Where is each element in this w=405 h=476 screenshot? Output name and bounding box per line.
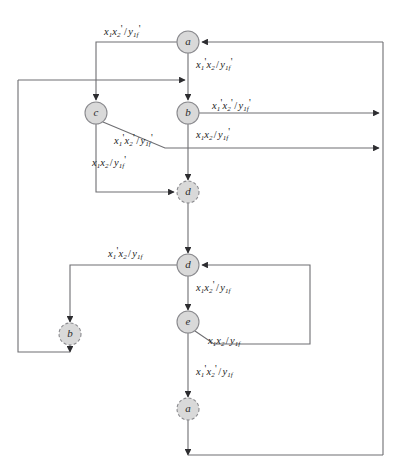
edge-a-dashed-to-right-bus	[188, 420, 383, 455]
node-d-label: d	[185, 258, 191, 270]
edge-a-to-c	[96, 42, 177, 100]
edge-label-c-diagonal: x1'x2'/y1f'	[114, 133, 153, 148]
node-e[interactable]: e	[177, 311, 199, 333]
node-b[interactable]: b	[177, 102, 199, 124]
node-b-dashed-label: b	[67, 327, 73, 339]
edge-label-e-to-d: x1x2/y1f	[208, 336, 240, 348]
node-c-label: c	[94, 106, 99, 118]
node-c[interactable]: c	[85, 102, 107, 124]
edge-d-to-b-dashed	[70, 265, 177, 322]
edge-label-b-right-1: x1'x2'/y1f'	[212, 98, 251, 113]
edge-label-a-to-c: x1x2'/y1f'	[104, 24, 141, 39]
node-b-label: b	[185, 106, 191, 118]
node-e-label: e	[186, 315, 191, 327]
state-diagram: a c b d d b e a x1	[0, 0, 405, 476]
node-a-top-label: a	[185, 35, 191, 47]
edge-label-a-to-b: x1'x2/y1f'	[196, 57, 233, 72]
edge-e-back-to-d	[195, 265, 310, 344]
node-d-dashed-label: d	[185, 185, 191, 197]
node-a-top[interactable]: a	[177, 31, 199, 53]
node-a-dashed[interactable]: a	[177, 398, 199, 420]
node-a-dashed-label: a	[185, 402, 191, 414]
edge-b-dashed-to-left-bus	[18, 80, 70, 352]
edge-label-e-to-a: x1'x2'/y1f	[196, 364, 233, 379]
node-d-dashed[interactable]: d	[177, 181, 199, 203]
node-b-dashed[interactable]: b	[59, 323, 81, 345]
node-d[interactable]: d	[177, 254, 199, 276]
edge-label-b-right-2: x1x2/y1f'	[196, 127, 230, 142]
edge-label-d-to-b: x1'x2/y1f	[108, 246, 142, 261]
edge-label-c-down: x1x2/y1f'	[92, 155, 126, 170]
edge-label-d-to-e: x1x2'/y1f	[196, 280, 230, 295]
